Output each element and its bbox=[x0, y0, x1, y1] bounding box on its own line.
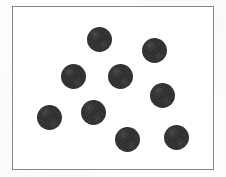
data-point-9 bbox=[164, 125, 189, 150]
data-point-7 bbox=[81, 100, 106, 125]
dot-field bbox=[13, 7, 213, 169]
figure-root bbox=[0, 0, 226, 177]
data-point-3 bbox=[61, 64, 86, 89]
data-point-5 bbox=[150, 83, 175, 108]
data-point-1 bbox=[87, 27, 112, 52]
data-point-4 bbox=[108, 64, 133, 89]
data-point-6 bbox=[37, 105, 62, 130]
data-point-2 bbox=[142, 38, 167, 63]
rectangular-border bbox=[12, 6, 214, 170]
data-point-8 bbox=[115, 127, 140, 152]
